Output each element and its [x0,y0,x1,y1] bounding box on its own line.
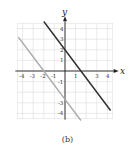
y-tick-label: -4 [58,110,64,116]
x-tick-label: -3 [30,73,36,79]
x-axis-arrow-icon [114,69,119,73]
y-axis-arrow-icon [63,16,67,21]
axes [15,16,118,119]
x-tick-label: -4 [19,73,25,79]
y-tick-label: 4 [60,26,64,32]
coordinate-plane: -4-3-2-11344321-1-3-4 x y [0,0,135,155]
y-tick-label: 2 [60,47,64,53]
x-tick-label: -1 [51,73,56,79]
y-tick-label: -3 [58,100,64,106]
x-tick-label: 4 [106,73,110,79]
x-axis-label: x [120,66,125,76]
x-tick-label: 3 [95,73,99,79]
x-tick-label: -2 [40,73,45,79]
y-tick-label: 1 [60,57,64,63]
y-axis-label: y [61,7,68,17]
figure-caption: (b) [0,135,135,144]
y-tick-label: 3 [60,36,64,42]
dark-line [44,21,111,110]
x-tick-label: 1 [74,73,78,79]
y-tick-label: -1 [58,79,63,85]
